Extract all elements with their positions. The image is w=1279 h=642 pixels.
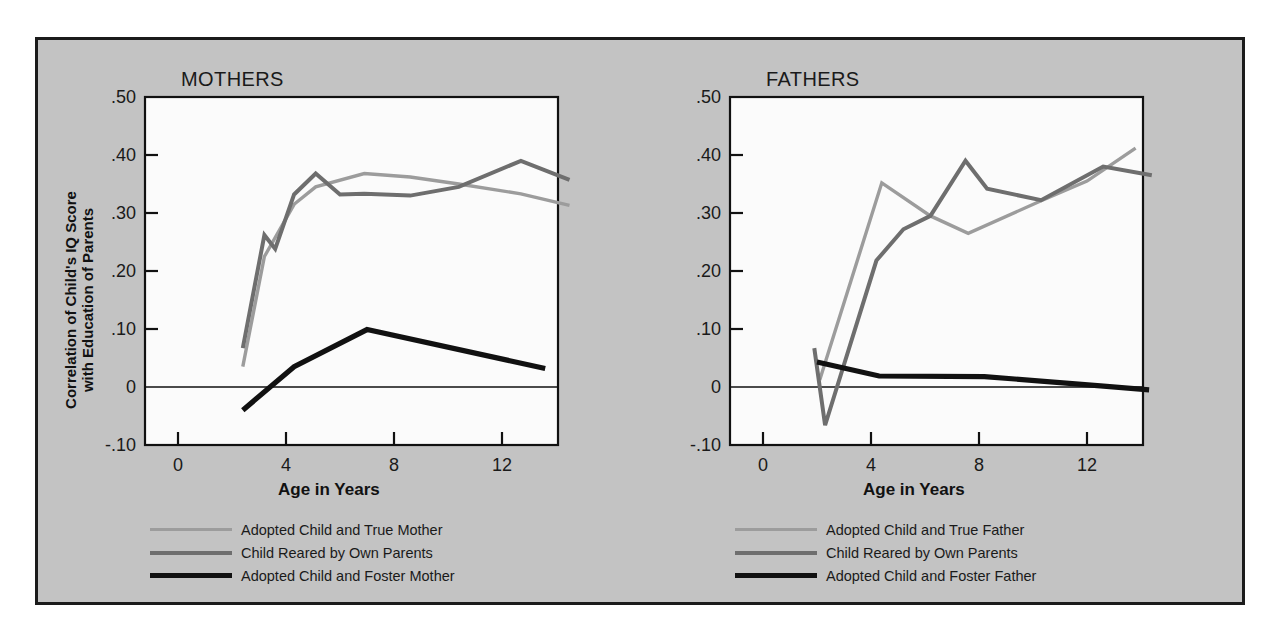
y-tick-label: .40 (696, 145, 721, 165)
x-axis-title-fathers: Age in Years (863, 480, 965, 500)
y-tick-label: .30 (111, 203, 136, 223)
x-tick-label: 8 (389, 455, 399, 475)
legend-label: Child Reared by Own Parents (826, 545, 1018, 561)
x-axis-title-mothers: Age in Years (278, 480, 380, 500)
y-tick-label: 0 (126, 377, 136, 397)
plot-background (730, 97, 1143, 445)
plot-area-fathers: -.100.10.20.30.40.500481216 (623, 40, 1178, 510)
legend-label: Adopted Child and True Mother (241, 522, 443, 538)
y-tick-label: 0 (711, 377, 721, 397)
legend-swatch-line (150, 573, 232, 578)
x-tick-label: 12 (1077, 455, 1097, 475)
figure-gray-panel: MOTHERS Correlation of Child's IQ Score … (35, 37, 1245, 605)
legend-fathers: Adopted Child and True FatherChild Reare… (735, 518, 1036, 587)
legend-item: Adopted Child and True Father (735, 518, 1036, 541)
legend-item: Adopted Child and True Mother (150, 518, 455, 541)
x-tick-label: 12 (492, 455, 512, 475)
y-tick-label: .50 (696, 87, 721, 107)
x-tick-label: 8 (974, 455, 984, 475)
legend-swatch-line (150, 551, 232, 555)
x-tick-label: 0 (758, 455, 768, 475)
legend-label: Adopted Child and Foster Mother (241, 568, 455, 584)
chart-panel-mothers: MOTHERS Correlation of Child's IQ Score … (38, 40, 593, 608)
figure-canvas: MOTHERS Correlation of Child's IQ Score … (0, 0, 1279, 642)
y-tick-label: .40 (111, 145, 136, 165)
chart-panel-fathers: FATHERS -.100.10.20.30.40.500481216 Age … (623, 40, 1178, 608)
x-tick-label: 0 (173, 455, 183, 475)
legend-item: Adopted Child and Foster Mother (150, 564, 455, 587)
legend-label: Adopted Child and True Father (826, 522, 1024, 538)
y-tick-label: .10 (696, 319, 721, 339)
y-tick-label: .50 (111, 87, 136, 107)
legend-label: Adopted Child and Foster Father (826, 568, 1036, 584)
legend-item: Child Reared by Own Parents (735, 541, 1036, 564)
plot-background (145, 97, 558, 445)
legend-swatch-line (735, 528, 817, 531)
y-tick-label: .20 (696, 261, 721, 281)
y-tick-label: .10 (111, 319, 136, 339)
x-tick-label: 4 (866, 455, 876, 475)
legend-label: Child Reared by Own Parents (241, 545, 433, 561)
y-tick-label: .30 (696, 203, 721, 223)
legend-item: Child Reared by Own Parents (150, 541, 455, 564)
y-tick-label: .20 (111, 261, 136, 281)
x-tick-label: 4 (281, 455, 291, 475)
legend-mothers: Adopted Child and True MotherChild Reare… (150, 518, 455, 587)
legend-swatch-line (150, 528, 232, 531)
legend-swatch-line (735, 551, 817, 555)
legend-item: Adopted Child and Foster Father (735, 564, 1036, 587)
legend-swatch-line (735, 573, 817, 578)
y-tick-label: -.10 (690, 435, 721, 455)
plot-area-mothers: -.100.10.20.30.40.500481216 (38, 40, 593, 510)
y-tick-label: -.10 (105, 435, 136, 455)
